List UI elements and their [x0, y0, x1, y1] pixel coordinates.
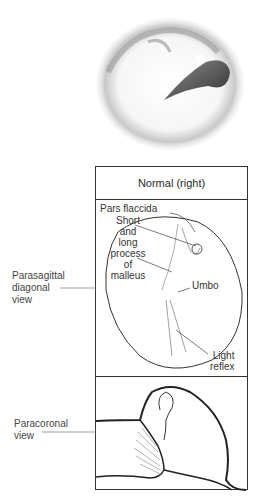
label-malleus: Short and long process of malleus [106, 215, 150, 281]
paracoronal-section-icon [96, 387, 246, 490]
side-label-line: diagonal [12, 282, 65, 294]
label-parasagittal-view: Parasagittal diagonal view [12, 270, 65, 306]
label-umbo: Umbo [192, 280, 219, 291]
label-light-reflex: Light reflex [210, 350, 234, 372]
label-malleus-line: Short [106, 215, 150, 226]
side-label-line: Paracoronal [14, 418, 68, 430]
label-malleus-line: malleus [106, 270, 150, 281]
side-label-line: Parasagittal [12, 270, 65, 282]
label-malleus-line: long [106, 237, 150, 248]
label-light-line: Light [210, 350, 234, 361]
label-pars-flaccida: Pars flaccida [100, 203, 157, 214]
label-light-line: reflex [210, 361, 234, 372]
label-malleus-line: of [106, 259, 150, 270]
side-label-line: view [14, 430, 68, 442]
label-malleus-line: and [106, 226, 150, 237]
side-label-line: view [12, 294, 65, 306]
label-paracoronal-view: Paracoronal view [14, 418, 68, 442]
label-malleus-line: process [106, 248, 150, 259]
